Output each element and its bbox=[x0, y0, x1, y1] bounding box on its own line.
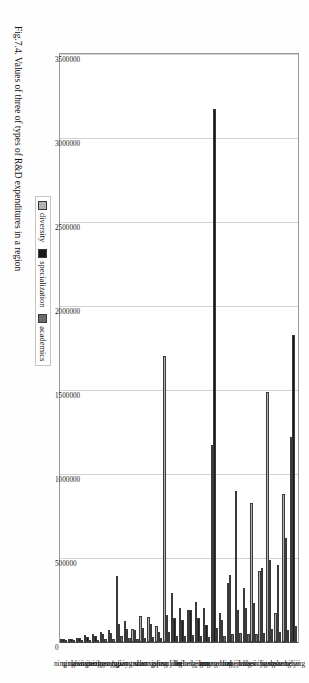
category-label-ningxia: ningxia bbox=[54, 659, 76, 668]
bar-diversity-hubei bbox=[243, 588, 245, 642]
bar-specialization-xinjiang bbox=[86, 637, 88, 642]
bar-diversity-yunnan bbox=[131, 629, 133, 642]
figure-caption-text: Fig.7.4. Values of three of types of R&D… bbox=[13, 26, 23, 271]
chart-category-row bbox=[290, 54, 298, 642]
chart-category-row bbox=[123, 54, 131, 642]
bar-academics-gansu bbox=[160, 638, 162, 642]
bar-specialization-liaoning bbox=[253, 603, 255, 642]
bar-specialization-heilongjiang bbox=[189, 610, 191, 642]
bar-specialization-fujian bbox=[118, 624, 120, 642]
bar-specialization-guizhou bbox=[94, 636, 96, 642]
bar-diversity-sichuan bbox=[258, 571, 260, 642]
bar-diversity-zhejiang bbox=[235, 491, 237, 642]
figure-page: 0500000100000015000002000000250000030000… bbox=[0, 0, 309, 683]
bar-academics-hainan bbox=[81, 640, 83, 642]
chart-category-row bbox=[211, 54, 219, 642]
bar-diversity-tianjin bbox=[227, 583, 229, 642]
value-tick-label: 2500000 bbox=[55, 224, 80, 232]
chart-category-row bbox=[227, 54, 235, 642]
bar-specialization-jiangxi bbox=[126, 629, 128, 642]
bar-diversity-ningxia bbox=[60, 639, 62, 642]
bar-academics-shaanxi bbox=[279, 632, 281, 642]
bar-diversity-guangxi bbox=[108, 630, 110, 642]
bar-academics-xinjiang bbox=[89, 640, 91, 642]
chart-category-row bbox=[242, 54, 250, 642]
bar-diversity-henan bbox=[195, 602, 197, 642]
bar-academics-zhejiang bbox=[239, 633, 241, 642]
legend-item-specialization[interactable]: specialization bbox=[39, 249, 48, 307]
value-tick-label: 3500000 bbox=[55, 56, 80, 64]
bar-academics-guangxi bbox=[112, 639, 114, 642]
value-tick-label: 3000000 bbox=[55, 140, 80, 148]
bar-specialization-jilin bbox=[173, 618, 175, 642]
bar-specialization-ningxia bbox=[62, 639, 64, 642]
bar-diversity-jilin bbox=[171, 593, 173, 642]
legend-item-academics[interactable]: academics bbox=[39, 314, 48, 361]
chart-category-row bbox=[147, 54, 155, 642]
bar-specialization-hainan bbox=[78, 638, 80, 642]
bar-specialization-shanghai bbox=[285, 538, 287, 642]
bar-academics-henan bbox=[200, 636, 202, 642]
legend-swatch-icon bbox=[39, 249, 48, 258]
bar-academics-guizhou bbox=[97, 640, 99, 642]
chart-plot-frame bbox=[59, 53, 299, 643]
bar-specialization-guangdong bbox=[213, 109, 215, 642]
chart-category-row bbox=[163, 54, 171, 642]
bar-diversity-beijing bbox=[290, 437, 292, 642]
bar-academics-hunan bbox=[208, 637, 210, 642]
bar-specialization-shanxi bbox=[142, 628, 144, 642]
bar-academics-liaoning bbox=[255, 634, 257, 642]
chart-category-row bbox=[131, 54, 139, 642]
bar-specialization-shaanxi bbox=[277, 565, 279, 642]
bar-specialization-hubei bbox=[245, 608, 247, 642]
bar-academics-chongqing bbox=[152, 637, 154, 642]
chart-category-row bbox=[219, 54, 227, 642]
bar-diversity-heilongjiang bbox=[187, 610, 189, 642]
bar-academics-shanghai bbox=[287, 630, 289, 642]
value-tick-label: 2000000 bbox=[55, 308, 80, 316]
bar-academics-jiangsu bbox=[271, 629, 273, 642]
bar-academics-ningxia bbox=[65, 640, 67, 642]
chart-category-row bbox=[139, 54, 147, 642]
bar-academics-shanxi bbox=[144, 638, 146, 642]
chart-category-row bbox=[116, 54, 124, 642]
chart-category-row bbox=[250, 54, 258, 642]
bar-diversity-fujian bbox=[116, 576, 118, 642]
chart-category-row bbox=[274, 54, 282, 642]
bar-diversity-guangdong bbox=[211, 445, 213, 642]
bar-diversity-jiangsu bbox=[266, 392, 268, 642]
chart-category-row bbox=[100, 54, 108, 642]
chart-plot-area bbox=[60, 54, 298, 642]
bar-specialization-guangxi bbox=[110, 633, 112, 642]
figure-container: 0500000100000015000002000000250000030000… bbox=[0, 0, 309, 683]
bar-diversity-shanxi bbox=[139, 616, 141, 642]
bar-academics-jilin bbox=[176, 636, 178, 642]
figure-caption: Fig.7.4. Values of three of types of R&D… bbox=[13, 26, 23, 271]
value-tick-label: 500000 bbox=[55, 560, 77, 568]
bar-specialization-henan bbox=[197, 618, 199, 642]
legend-label: academics bbox=[39, 326, 48, 361]
category-axis-labels: beijingshanghaishaanxijiangsusichuanliao… bbox=[59, 643, 299, 683]
bar-diversity-hebei bbox=[179, 608, 181, 642]
bar-specialization-neimenggu bbox=[102, 634, 104, 642]
bar-academics-anhui bbox=[223, 636, 225, 642]
bar-academics-jiangxi bbox=[128, 638, 130, 642]
bar-diversity-xinjiang bbox=[84, 635, 86, 642]
bar-academics-shandong bbox=[168, 632, 170, 642]
bar-diversity-qinghai bbox=[68, 639, 70, 642]
chart-category-row bbox=[84, 54, 92, 642]
bar-academics-tianjin bbox=[231, 634, 233, 642]
chart-category-row bbox=[179, 54, 187, 642]
bar-specialization-yunnan bbox=[134, 630, 136, 642]
bar-academics-sichuan bbox=[263, 633, 265, 642]
bar-specialization-anhui bbox=[221, 620, 223, 642]
bar-specialization-hebei bbox=[181, 620, 183, 642]
chart-category-row bbox=[282, 54, 290, 642]
bar-specialization-qinghai bbox=[70, 639, 72, 642]
bar-specialization-sichuan bbox=[261, 568, 263, 642]
bar-specialization-gansu bbox=[158, 632, 160, 642]
legend-item-diversity[interactable]: diversity bbox=[39, 201, 48, 242]
bar-diversity-gansu bbox=[155, 626, 157, 642]
bar-diversity-guizhou bbox=[92, 634, 94, 642]
bar-specialization-chongqing bbox=[150, 624, 152, 642]
